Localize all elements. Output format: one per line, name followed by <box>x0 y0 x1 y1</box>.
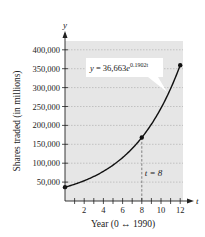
x-tick-label: 8 <box>140 205 144 215</box>
y-tick-label: 200,000 <box>32 120 60 130</box>
y-tick-label: 250,000 <box>32 102 60 112</box>
x-tick-label: 4 <box>101 205 106 215</box>
y-axis-arrow-icon <box>63 31 68 38</box>
x-axis-symbol: t <box>196 196 199 206</box>
exponential-chart: t = 8 y = 36,663e0.1902t 50,000100,00015… <box>0 0 205 237</box>
x-tick-label: 12 <box>176 205 185 215</box>
y-axis-label: Shares traded (in millions) <box>12 70 23 171</box>
x-tick-label: 2 <box>82 205 86 215</box>
data-point-marker <box>140 135 144 139</box>
y-tick-label: 150,000 <box>32 139 60 149</box>
t8-label: t = 8 <box>145 168 163 178</box>
y-tick-label: 400,000 <box>32 45 60 55</box>
y-tick-label: 300,000 <box>32 83 60 93</box>
y-axis-symbol: y <box>62 20 67 30</box>
y-tick-label: 50,000 <box>37 177 60 187</box>
y-tick-label: 100,000 <box>32 158 60 168</box>
x-axis-arrow-icon <box>187 199 194 204</box>
x-axis-label: Year (0 ↔ 1990) <box>91 219 155 230</box>
x-tick-label: 6 <box>120 205 124 215</box>
y-axis-ticks: 50,000100,000150,000200,000250,000300,00… <box>32 45 68 187</box>
y-tick-label: 350,000 <box>32 64 60 74</box>
data-point-marker <box>178 63 182 67</box>
x-tick-label: 10 <box>157 205 166 215</box>
